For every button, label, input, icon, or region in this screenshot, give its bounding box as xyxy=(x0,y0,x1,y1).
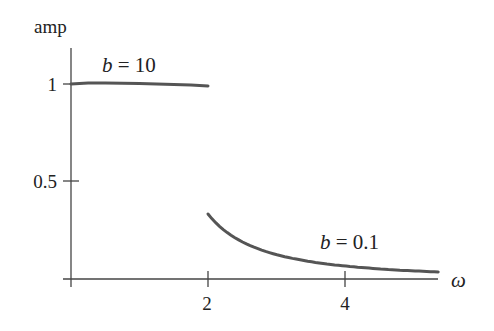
annotation-b-10: b = 10 xyxy=(102,53,156,77)
annotation-b-0.1-value: = 0.1 xyxy=(331,230,380,254)
annotation-b-10-var: b xyxy=(102,53,113,77)
x-tick-label-2: 2 xyxy=(202,293,212,314)
x-axis-title: ω xyxy=(451,268,466,292)
curve-b-10 xyxy=(71,83,208,86)
annotation-b-0.1: b = 0.1 xyxy=(320,230,379,254)
x-tick-label-4: 4 xyxy=(340,293,350,314)
annotation-b-10-value: = 10 xyxy=(113,53,156,77)
y-tick-label-0.5: 0.5 xyxy=(33,171,57,192)
y-axis-title: amp xyxy=(34,16,67,37)
y-tick-label-1: 1 xyxy=(48,74,58,95)
annotation-b-0.1-var: b xyxy=(320,230,331,254)
amplitude-chart: 1 0.5 2 4 amp ω b = 10 b = 0.1 xyxy=(0,0,494,331)
